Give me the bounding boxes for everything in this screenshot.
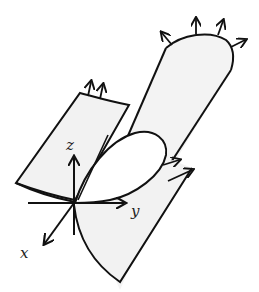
normal-arrow-icon <box>100 85 103 99</box>
normal-arrow-icon <box>218 21 223 35</box>
y-label: y <box>130 202 140 220</box>
normal-arrow-icon <box>162 33 172 45</box>
normal-arrow-icon <box>231 40 245 47</box>
surface-diagram: z y x <box>0 0 259 292</box>
x-label: x <box>20 244 29 262</box>
z-label: z <box>65 136 74 154</box>
x-axis <box>45 203 74 243</box>
normal-arrow-icon <box>88 82 91 96</box>
